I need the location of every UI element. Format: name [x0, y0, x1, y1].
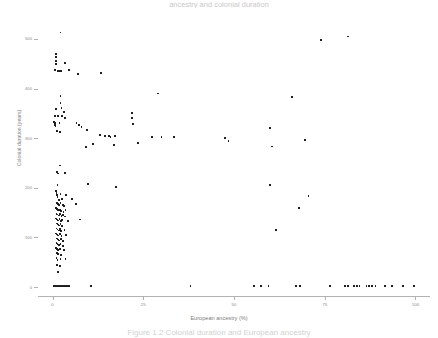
scatter-point — [60, 95, 62, 97]
scatter-point — [131, 112, 133, 114]
scatter-point — [344, 285, 346, 287]
y-axis-tick — [34, 138, 38, 139]
y-axis-tick-label: 0 — [8, 285, 32, 290]
scatter-point — [63, 249, 65, 251]
scatter-point — [359, 285, 361, 287]
scatter-point — [131, 117, 133, 119]
scatter-point — [56, 130, 58, 132]
scatter-point — [65, 234, 67, 236]
scatter-point — [60, 230, 62, 232]
scatter-point — [60, 102, 62, 104]
scatter-point — [59, 265, 61, 267]
scatter-point — [269, 184, 271, 186]
y-axis-tick-label: 500 — [8, 36, 32, 41]
scatter-point — [64, 216, 66, 218]
scatter-point — [81, 126, 83, 128]
scatter-point — [60, 258, 62, 260]
scatter-point — [60, 243, 62, 245]
scatter-point — [59, 165, 61, 167]
scatter-point — [224, 137, 226, 139]
scatter-point — [60, 193, 62, 195]
scatter-point — [57, 271, 59, 273]
scatter-point — [368, 285, 370, 287]
scatter-point — [115, 186, 117, 188]
x-axis-tick-label: 100 — [403, 302, 427, 308]
scatter-point — [67, 220, 69, 222]
scatter-point — [347, 36, 349, 38]
scatter-point — [320, 39, 322, 41]
scatter-point — [157, 93, 159, 95]
scatter-point — [64, 172, 66, 174]
scatter-point — [132, 123, 134, 125]
scatter-point — [161, 136, 163, 138]
scatter-point — [71, 198, 73, 200]
scatter-point — [86, 129, 88, 131]
scatter-point — [65, 209, 67, 211]
scatter-point — [299, 285, 301, 287]
scatter-point — [63, 205, 65, 207]
scatter-point — [55, 63, 57, 65]
scatter-point — [391, 285, 393, 287]
y-axis-tick-label: 400 — [8, 86, 32, 91]
scatter-point — [375, 285, 377, 287]
scatter-point — [60, 210, 62, 212]
scatter-point — [61, 198, 63, 200]
scatter-point — [100, 72, 102, 74]
scatter-point — [308, 195, 310, 197]
scatter-point — [59, 122, 61, 124]
scatter-point — [57, 184, 59, 186]
x-axis-tick-label: 75 — [313, 302, 337, 308]
y-axis-tick — [34, 188, 38, 189]
scatter-point — [228, 140, 230, 142]
scatter-point — [57, 196, 59, 198]
scatter-point — [61, 219, 63, 221]
scatter-point — [295, 285, 297, 287]
figure-container: ancestry and colonial duration Colonial … — [0, 0, 438, 338]
scatter-point — [59, 131, 61, 133]
scatter-point — [55, 56, 57, 58]
scatter-point — [61, 235, 63, 237]
scatter-point — [54, 69, 56, 71]
scatter-point — [58, 225, 60, 227]
scatter-point — [173, 136, 175, 138]
scatter-plot-area — [38, 24, 430, 296]
scatter-point — [63, 211, 65, 213]
scatter-point — [75, 203, 77, 205]
scatter-point — [253, 285, 255, 287]
scatter-point — [57, 173, 59, 175]
scatter-point — [271, 146, 273, 148]
scatter-point — [190, 285, 192, 287]
scatter-point — [347, 285, 349, 287]
scatter-point — [58, 199, 60, 201]
x-axis-tick — [53, 296, 54, 300]
scatter-point — [63, 111, 65, 113]
scatter-point — [304, 139, 306, 141]
scatter-point — [65, 194, 67, 196]
scatter-point — [275, 229, 277, 231]
scatter-point — [110, 136, 112, 138]
y-axis-tick-label: 300 — [8, 136, 32, 141]
scatter-point — [85, 146, 87, 148]
scatter-point — [68, 285, 70, 287]
scatter-point — [137, 142, 139, 144]
scatter-point — [151, 136, 153, 138]
scatter-point — [114, 135, 116, 137]
scatter-point — [353, 285, 355, 287]
scatter-point — [76, 122, 78, 124]
scatter-point — [61, 107, 63, 109]
scatter-point — [329, 285, 331, 287]
y-axis-tick-label: 100 — [8, 235, 32, 240]
scatter-point — [77, 73, 79, 75]
scatter-point — [56, 264, 58, 266]
scatter-point — [104, 135, 106, 137]
scatter-point — [64, 229, 66, 231]
scatter-point — [55, 53, 57, 55]
x-axis-tick — [325, 296, 326, 300]
scatter-point — [60, 32, 62, 34]
x-axis-tick-label: 25 — [131, 302, 155, 308]
scatter-point — [78, 124, 80, 126]
scatter-point — [61, 225, 63, 227]
scatter-point — [61, 115, 63, 117]
x-axis-label: European ancestry (%) — [0, 315, 438, 321]
scatter-point — [62, 240, 64, 242]
